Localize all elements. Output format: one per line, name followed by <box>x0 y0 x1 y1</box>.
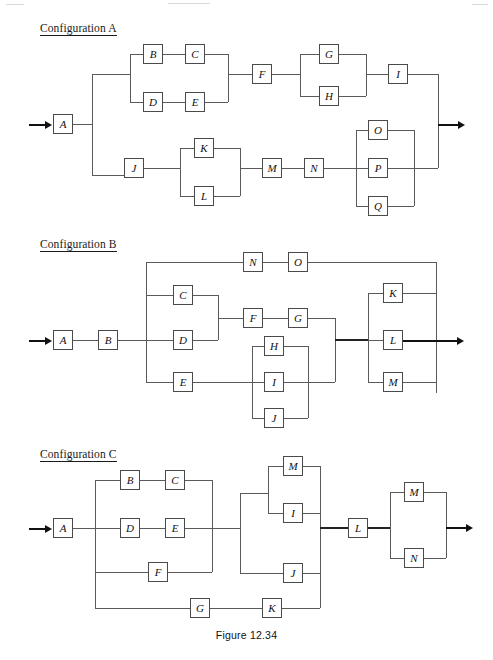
wire-a-to-d <box>130 102 143 103</box>
wire-a-to-h <box>300 96 319 97</box>
block-a-j: J <box>124 158 144 178</box>
wire-c-l-out <box>368 527 390 529</box>
wire-b-to-l <box>368 340 383 341</box>
wire-c-to-m-right <box>390 492 404 493</box>
block-b-n: N <box>243 252 263 272</box>
wire-b-to-d <box>146 340 173 341</box>
wire-c-mid-merge-vertical <box>320 466 321 608</box>
wire-a-q-merge <box>388 206 414 207</box>
block-a-i: I <box>388 64 408 84</box>
wire-c-f-merge <box>168 572 212 573</box>
wire-a-i-out <box>408 74 438 75</box>
wire-a-right-rail <box>438 74 439 168</box>
wire-a-g-merge <box>339 54 366 55</box>
wire-b-d-merge <box>193 340 218 341</box>
wire-c-j-merge <box>303 573 320 574</box>
wire-b-j-merge <box>284 418 308 419</box>
wire-b-h-merge <box>284 346 308 347</box>
block-a-a: A <box>53 114 73 134</box>
page-edge-mark-top-mid <box>168 3 210 4</box>
wire-b-c-merge <box>193 295 218 296</box>
wire-a-k-merge <box>214 148 240 149</box>
wire-a-bd-fan-vertical <box>130 54 131 102</box>
block-a-c: C <box>185 44 205 64</box>
wire-b-node-to-klm <box>335 339 368 341</box>
wire-b-e-out <box>193 382 252 383</box>
wire-c-to-m-upper <box>268 466 283 467</box>
wire-a-opq-to-rail <box>414 168 438 169</box>
wire-a-to-p <box>356 168 368 169</box>
block-c-d: D <box>120 518 140 538</box>
wire-a-f-out <box>272 74 300 75</box>
block-c-b: B <box>120 470 140 490</box>
wire-a-to-l <box>180 196 194 197</box>
wire-b-klm-fan-vertical <box>368 293 369 382</box>
wire-a-gh-merge-vertical <box>366 54 367 96</box>
config-c-title: Configuration C <box>40 448 117 462</box>
block-b-j: J <box>264 408 284 428</box>
block-b-m: M <box>383 372 403 392</box>
block-c-e: E <box>165 518 185 538</box>
wire-b-n-o <box>263 262 288 263</box>
wire-a-o-merge <box>388 130 414 131</box>
wire-b-to-k <box>368 293 383 294</box>
wire-c-main-split-vertical <box>95 480 96 608</box>
wire-b-to-n <box>146 262 243 263</box>
block-a-e: E <box>185 92 205 112</box>
block-a-g: G <box>319 44 339 64</box>
wire-b-merge-to-f <box>218 318 243 319</box>
block-a-q: Q <box>368 196 388 216</box>
wire-b-i-merge <box>284 382 308 383</box>
block-c-f: F <box>148 562 168 582</box>
page-edge-mark-top-right <box>472 4 488 5</box>
block-c-i: I <box>283 503 303 523</box>
block-b-k: K <box>383 283 403 303</box>
block-a-o: O <box>368 120 388 140</box>
block-c-m-right: M <box>404 482 424 502</box>
block-a-d: D <box>143 92 163 112</box>
wire-a-h-merge <box>339 96 366 97</box>
figure-page: Configuration A B C D E F G H I A J <box>0 0 493 660</box>
wire-a-ce-merge-vertical <box>228 54 229 102</box>
wire-a-m-n <box>282 168 304 169</box>
wire-b-f-g <box>263 318 288 319</box>
block-c-k: K <box>262 598 282 618</box>
wire-a-split-vertical <box>92 74 93 175</box>
wire-a-out <box>73 124 92 125</box>
wire-b-m-merge <box>403 382 436 383</box>
wire-a-d-e <box>163 102 185 103</box>
wire-a-kl-fan-vertical <box>180 148 181 196</box>
block-b-l: L <box>383 330 403 350</box>
wire-b-right-rail-vertical <box>436 262 437 393</box>
wire-a-to-g <box>300 54 319 55</box>
block-c-n: N <box>404 548 424 568</box>
block-c-g: G <box>190 598 210 618</box>
config-b-title: Configuration B <box>40 238 117 252</box>
wire-b-to-m <box>368 382 383 383</box>
wire-b-a-b <box>73 340 98 341</box>
block-a-h: H <box>319 86 339 106</box>
block-c-l: L <box>348 518 368 538</box>
wire-c-mid-fan-vertical <box>240 493 241 573</box>
block-b-i: I <box>264 372 284 392</box>
wire-a-gh-fan-vertical <box>300 54 301 96</box>
block-b-c: C <box>173 285 193 305</box>
wire-a-lower-branch <box>92 175 124 176</box>
wire-c-n-merge <box>424 558 446 559</box>
wire-b-g-down-vertical <box>335 318 336 382</box>
wire-c-node-to-l <box>320 527 348 529</box>
wire-c-to-g <box>95 608 190 609</box>
block-b-o: O <box>288 252 308 272</box>
block-b-d: D <box>173 330 193 350</box>
block-a-l: L <box>194 186 214 206</box>
block-b-g: G <box>288 308 308 328</box>
wire-c-to-n <box>390 558 404 559</box>
wire-c-d-e <box>140 528 165 529</box>
wire-c-i-merge <box>303 513 320 514</box>
block-b-b: B <box>98 330 118 350</box>
wire-a-merge-to-f <box>228 74 252 75</box>
wire-c-to-b <box>95 480 120 481</box>
wire-c-a-out <box>73 528 95 529</box>
wire-c-b-c <box>140 480 165 481</box>
wire-a-to-b <box>130 54 143 55</box>
